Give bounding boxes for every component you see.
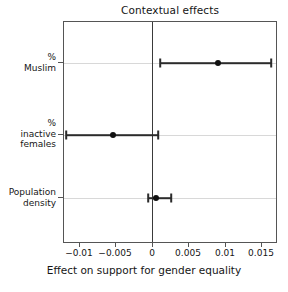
estimate-point-inactive-females (110, 132, 116, 138)
error-cap-high-population-density (170, 194, 172, 203)
xticklabel-0: 0 (149, 248, 155, 259)
error-cap-low-muslim (159, 59, 161, 68)
xtick-neg-0-01 (79, 243, 80, 247)
xtick-0-01 (225, 243, 226, 247)
error-cap-high-muslim (270, 59, 272, 68)
estimate-point-muslim (215, 60, 221, 66)
ylabel-population-density: Population density (9, 187, 56, 208)
ytick-population-density (58, 197, 63, 198)
chart-figure: Contextual effects (0, 0, 288, 292)
x-axis-title: Effect on support for gender equality (0, 264, 288, 277)
estimate-point-population-density (153, 195, 159, 201)
xticklabel-neg-0-01: −0.01 (65, 248, 93, 259)
xticklabel-0-005: 0.005 (175, 248, 201, 259)
error-cap-low-inactive-females (65, 131, 67, 140)
ylabel-inactive-females: % inactive females (20, 118, 56, 150)
ytick-inactive-females (58, 134, 63, 135)
error-cap-low-population-density (147, 194, 149, 203)
xtick-0 (152, 243, 153, 247)
error-bar-population-density (148, 197, 171, 199)
xticklabel-0-01: 0.01 (215, 248, 235, 259)
ylabel-muslim: % Muslim (24, 52, 56, 73)
error-cap-high-inactive-females (157, 131, 159, 140)
chart-title: Contextual effects (63, 4, 277, 17)
zero-reference-line (152, 22, 153, 242)
xtick-neg-0-005 (115, 243, 116, 247)
ytick-muslim (58, 62, 63, 63)
plot-inner (64, 22, 276, 242)
xtick-0-015 (261, 243, 262, 247)
xticklabel-0-015: 0.015 (248, 248, 274, 259)
plot-area (63, 21, 277, 243)
xtick-0-005 (188, 243, 189, 247)
xticklabel-neg-0-005: −0.005 (98, 248, 131, 259)
